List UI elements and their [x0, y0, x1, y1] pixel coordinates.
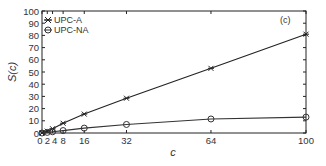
y-tick-label: 10: [28, 115, 39, 126]
y-tick-label: 20: [28, 103, 39, 114]
x-tick-label: 16: [79, 135, 90, 146]
series-layer: [39, 32, 309, 136]
y-tick-label: 90: [28, 18, 39, 29]
y-axis-label: S(c): [6, 62, 18, 83]
legend-label-upc-na: UPC-NA: [54, 25, 89, 35]
y-tick-label: 50: [28, 67, 39, 78]
asterisk-marker-icon: [81, 112, 87, 117]
y-tick-label: 40: [28, 79, 39, 90]
x-tick-label: 8: [60, 135, 65, 146]
x-tick-label: 100: [298, 135, 314, 146]
y-tick-label: 80: [28, 30, 39, 41]
y-tick-label: 30: [28, 91, 39, 102]
asterisk-marker-icon: [60, 121, 66, 126]
x-tick-label: 2: [45, 135, 50, 146]
x-axis-label: c: [170, 146, 176, 158]
legend-label-upc-a: UPC-A: [54, 15, 82, 25]
series-line-upc-na: [42, 117, 306, 133]
asterisk-marker-icon: [208, 66, 214, 71]
line-chart: 0102030405060708090100 0248163264100 (c)…: [0, 0, 326, 166]
x-tick-label: 64: [206, 135, 217, 146]
y-tick-label: 70: [28, 42, 39, 53]
panel-annotation: (c): [280, 15, 291, 25]
x-tick-label: 32: [121, 135, 132, 146]
legend: UPC-A UPC-NA: [44, 15, 89, 35]
y-tick-label: 60: [28, 54, 39, 65]
y-tick-label: 100: [23, 6, 39, 17]
x-tick-label: 4: [52, 135, 57, 146]
asterisk-marker-icon: [45, 17, 52, 23]
asterisk-marker-icon: [123, 96, 129, 101]
x-tick-label: 0: [37, 135, 42, 146]
